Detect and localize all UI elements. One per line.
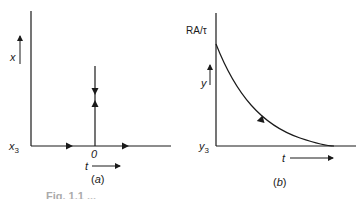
panel-a-x-axis-label: x: [10, 52, 16, 63]
panel-a-trajectory: [66, 66, 129, 150]
panel-a-axes: [31, 11, 171, 146]
figure-caption-fragment: Fig. 1.1 ...: [46, 190, 96, 199]
panel-b-letter: b: [277, 176, 283, 188]
panel-b-axes: [216, 13, 356, 146]
panel-a-letter: a: [95, 173, 101, 185]
panel-a-t-label: t: [85, 161, 88, 172]
origin-subscript: 3: [205, 146, 209, 155]
panel-b-caption: (b): [273, 177, 286, 188]
diagram-canvas: [0, 0, 364, 199]
panel-b-top-label: RA/τ: [186, 25, 207, 36]
panel-a-caption: (a): [91, 174, 104, 185]
panel-b-y-axis-label: y: [201, 78, 207, 89]
panel-b-t-label: t: [282, 153, 285, 164]
panel-b-origin-label: y3: [199, 141, 209, 156]
panel-a-zero-tick: 0: [91, 149, 97, 160]
panel-a-origin-label: x3: [9, 141, 19, 156]
panel-b-decay-curve: [216, 44, 334, 146]
origin-subscript: 3: [15, 146, 19, 155]
